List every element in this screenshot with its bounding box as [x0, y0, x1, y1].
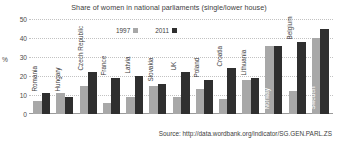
source-note: Source: http://data.wordbank.org/indicat… [0, 130, 336, 137]
category-label: Hungary [55, 67, 62, 91]
bar-2011 [88, 72, 97, 114]
bar-group: Lithuania [239, 19, 262, 114]
y-axis-tick-label: 40 [1, 35, 27, 42]
y-axis-tick-label: 50 [1, 16, 27, 23]
category-label: Belgium [287, 17, 294, 40]
category-label: Romania [32, 66, 39, 92]
bar-2011 [320, 29, 329, 115]
bar-2011 [181, 72, 190, 114]
bar-group: UK [169, 19, 192, 114]
bar-2011 [111, 78, 120, 114]
bar-2011 [135, 76, 144, 114]
bar-2011 [42, 93, 51, 114]
bar-1997 [173, 97, 182, 114]
category-label: Slovakia [148, 57, 155, 81]
bar-1997 [289, 91, 298, 114]
y-axis-tick-label: 10 [1, 92, 27, 99]
bar-2011 [297, 42, 306, 114]
bar-1997 [149, 86, 158, 115]
bar-1997 [80, 86, 89, 115]
bar-2011 [274, 46, 283, 114]
bar-group: Poland [193, 19, 216, 114]
y-axis-label: % [2, 56, 8, 63]
category-label: Latvia [125, 57, 132, 74]
bar-1997 [219, 99, 228, 114]
bar-2011 [158, 84, 167, 114]
bar-group: Romania [30, 19, 53, 114]
y-axis: 01020304050 [0, 19, 27, 114]
bar-groups: RomaniaHungaryCzech RepublicFranceLatvia… [29, 19, 333, 114]
bar-2011 [65, 97, 74, 114]
bar-2011 [227, 68, 236, 114]
bar-1997 [265, 46, 274, 114]
category-label: Poland [194, 58, 201, 78]
bar-group: Croatia [216, 19, 239, 114]
chart-title: Share of women in national parliaments (… [0, 3, 338, 12]
bar-1997 [33, 101, 42, 114]
bar-group: Hungary [53, 19, 76, 114]
bar-group: Latvia [123, 19, 146, 114]
bar-group: Czech Republic [76, 19, 99, 114]
category-label: UK [171, 61, 178, 70]
bar-1997 [242, 80, 251, 114]
bar-1997 [56, 93, 65, 114]
bar-group: Sweden [309, 19, 332, 114]
bar-1997 [126, 97, 135, 114]
y-axis-tick-label: 20 [1, 73, 27, 80]
bar-1997 [196, 89, 205, 114]
y-axis-tick-label: 0 [1, 111, 27, 118]
bar-group: France [100, 19, 123, 114]
category-label: Czech Republic [78, 25, 85, 70]
bar-group: Slovakia [146, 19, 169, 114]
bar-1997 [312, 38, 321, 114]
bar-2011 [251, 78, 260, 114]
category-label: Lithuania [241, 50, 248, 76]
bar-group: Norway [262, 19, 285, 114]
category-label: Croatia [218, 46, 225, 67]
bar-group: Belgium [286, 19, 309, 114]
bar-1997 [103, 103, 112, 114]
chart-container: Share of women in national parliaments (… [0, 0, 338, 145]
category-label: France [102, 56, 109, 76]
bar-2011 [204, 80, 213, 114]
